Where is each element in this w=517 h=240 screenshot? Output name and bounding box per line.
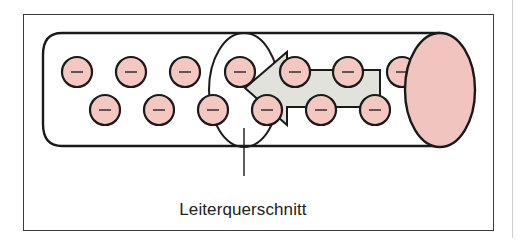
electron	[62, 57, 92, 87]
electron	[225, 57, 255, 87]
electron	[144, 95, 174, 125]
electron	[90, 95, 120, 125]
electron	[333, 57, 363, 87]
electron	[198, 95, 228, 125]
electron	[360, 95, 390, 125]
electron	[252, 95, 282, 125]
electron	[280, 57, 310, 87]
electron	[306, 95, 336, 125]
conductor-end-face	[405, 33, 475, 147]
cross-section-label: Leiterquerschnitt	[120, 200, 366, 220]
electron	[116, 57, 146, 87]
electron	[170, 57, 200, 87]
